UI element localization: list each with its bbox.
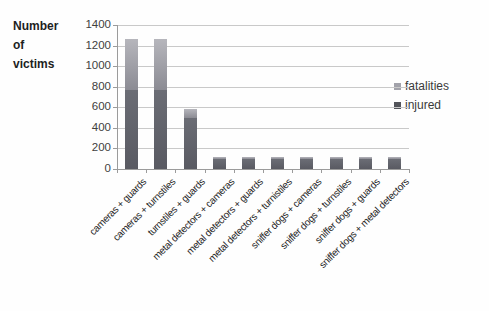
y-tick-label-0: 0: [61, 162, 111, 174]
bar-2-injured: [184, 118, 197, 169]
x-tick-4: [234, 169, 235, 173]
bar-5-fatalities: [271, 157, 284, 159]
x-tick-7: [321, 169, 322, 173]
x-tick-10: [409, 169, 410, 173]
y-tick-label-600: 600: [61, 100, 111, 112]
x-axis-line: [113, 169, 409, 170]
bar-4-fatalities: [242, 157, 255, 159]
bar-0-injured: [125, 90, 138, 169]
y-tick-label-400: 400: [61, 121, 111, 133]
x-tick-1: [146, 169, 147, 173]
chart-container: Number of victims fatalities injured 020…: [0, 0, 489, 311]
y-tick-label-1400: 1400: [61, 18, 111, 30]
bar-9-fatalities: [388, 157, 401, 159]
x-tick-0: [117, 169, 118, 173]
x-tick-2: [175, 169, 176, 173]
bar-0-fatalities: [125, 39, 138, 89]
bar-9-injured: [388, 159, 401, 169]
y-tick-label-1200: 1200: [61, 39, 111, 51]
legend-item-injured: injured: [394, 98, 449, 112]
bar-3-injured: [213, 159, 226, 169]
bar-7-injured: [330, 159, 343, 169]
bar-5-injured: [271, 159, 284, 169]
bar-1-injured: [154, 90, 167, 169]
gridline-1400: [117, 25, 409, 26]
y-tick-label-200: 200: [61, 141, 111, 153]
bar-6-injured: [300, 159, 313, 169]
legend-label-fatalities: fatalities: [405, 79, 449, 93]
x-tick-9: [380, 169, 381, 173]
x-tick-3: [205, 169, 206, 173]
bar-4-injured: [242, 159, 255, 169]
bar-8-injured: [359, 159, 372, 169]
bar-2-fatalities: [184, 109, 197, 117]
bar-3-fatalities: [213, 157, 226, 159]
x-tick-6: [292, 169, 293, 173]
x-tick-8: [351, 169, 352, 173]
legend-label-injured: injured: [405, 98, 441, 112]
y-axis-line: [117, 25, 118, 169]
bar-1-fatalities: [154, 39, 167, 89]
bar-8-fatalities: [359, 157, 372, 159]
bar-7-fatalities: [330, 157, 343, 159]
bar-6-fatalities: [300, 157, 313, 159]
y-tick-label-1000: 1000: [61, 59, 111, 71]
x-tick-5: [263, 169, 264, 173]
y-tick-label-800: 800: [61, 80, 111, 92]
y-axis-title: Number of victims: [13, 17, 58, 74]
legend: fatalities injured: [394, 79, 449, 117]
